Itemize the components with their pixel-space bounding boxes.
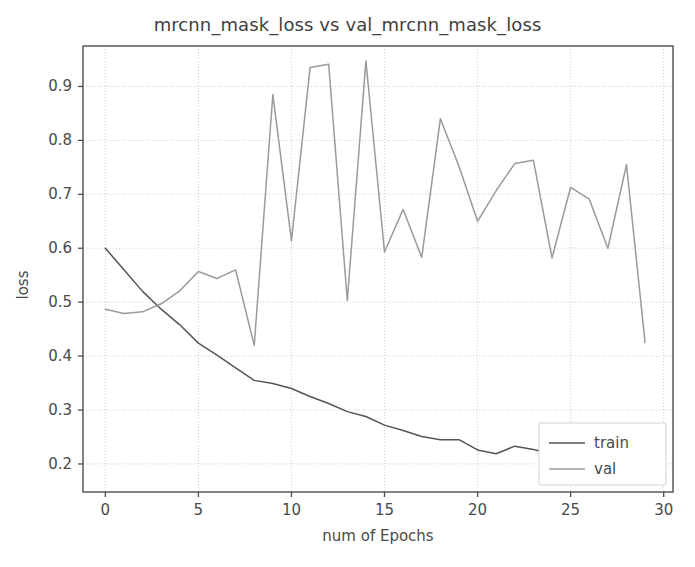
- x-tick-label: 5: [194, 501, 204, 519]
- y-tick-label: 0.4: [48, 347, 72, 365]
- chart-legend[interactable]: trainval: [539, 423, 666, 485]
- y-tick-label: 0.3: [48, 401, 72, 419]
- x-tick-label: 25: [561, 501, 580, 519]
- x-axis-label: num of Epochs: [322, 527, 434, 545]
- legend-label-train[interactable]: train: [594, 434, 629, 452]
- x-tick-label: 10: [282, 501, 301, 519]
- chart-figure: mrcnn_mask_loss vs val_mrcnn_mask_loss 0…: [0, 0, 695, 567]
- legend-label-val[interactable]: val: [594, 460, 616, 478]
- y-tick-label: 0.2: [48, 455, 72, 473]
- y-tick-label: 0.7: [48, 185, 72, 203]
- x-tick-label: 30: [654, 501, 673, 519]
- x-tick-label: 0: [101, 501, 111, 519]
- y-axis-ticks: 0.20.30.40.50.60.70.80.9: [48, 77, 83, 473]
- chart-plot-area: 051015202530 0.20.30.40.50.60.70.80.9 nu…: [0, 0, 695, 567]
- y-tick-label: 0.9: [48, 77, 72, 95]
- y-tick-label: 0.8: [48, 131, 72, 149]
- y-axis-label: loss: [14, 270, 32, 299]
- y-tick-label: 0.5: [48, 293, 72, 311]
- x-tick-label: 15: [375, 501, 394, 519]
- x-axis-ticks: 051015202530: [101, 492, 674, 519]
- x-tick-label: 20: [468, 501, 487, 519]
- y-tick-label: 0.6: [48, 239, 72, 257]
